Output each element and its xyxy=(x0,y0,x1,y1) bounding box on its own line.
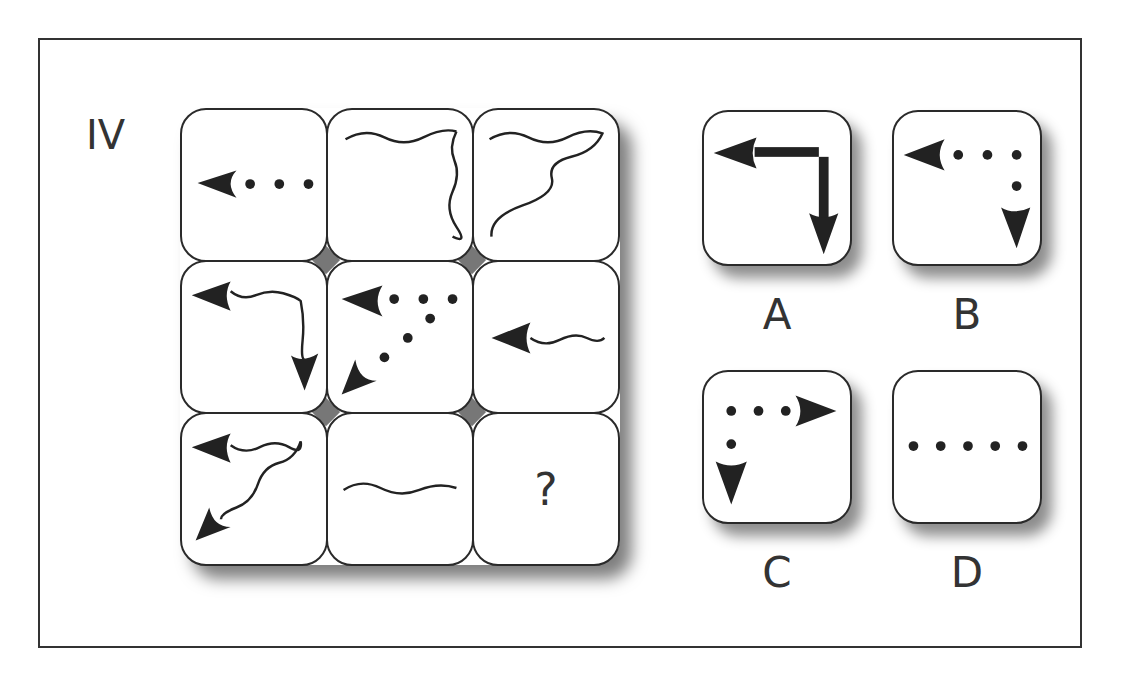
option-d[interactable] xyxy=(892,370,1042,524)
dotted-left-diagonal-arrows-icon xyxy=(328,262,472,412)
option-a-label: A xyxy=(747,290,807,339)
grid-cell-missing: ? xyxy=(472,412,620,566)
wavy-left-diagonal-arrows-icon xyxy=(182,414,326,564)
grid-cell-r2c2 xyxy=(326,260,474,414)
set-label: IV xyxy=(86,112,125,158)
grid-cell-r2c1 xyxy=(180,260,328,414)
wavy-triangle-line-icon xyxy=(474,110,618,260)
wavy-line-icon xyxy=(328,414,472,564)
option-c-label: C xyxy=(747,548,807,597)
grid-cell-r3c1 xyxy=(180,412,328,566)
option-b[interactable] xyxy=(892,110,1042,266)
grid-cell-r1c3 xyxy=(472,108,620,262)
option-b-label: B xyxy=(937,290,997,339)
grid-cell-r3c3-wavy xyxy=(472,260,620,414)
option-a[interactable] xyxy=(702,110,852,266)
dotted-left-arrow-icon xyxy=(182,110,326,260)
five-dots-icon xyxy=(894,372,1040,522)
wavy-left-down-arrows-icon xyxy=(182,262,326,412)
option-c[interactable] xyxy=(702,370,852,524)
wavy-corner-line-icon xyxy=(328,110,472,260)
dotted-right-down-arrows-icon xyxy=(704,372,850,522)
option-d-label: D xyxy=(937,548,997,597)
dotted-left-down-arrows-icon xyxy=(894,112,1040,264)
wavy-left-arrow-icon xyxy=(474,262,618,412)
grid-cell-r3c2 xyxy=(326,412,474,566)
missing-marker: ? xyxy=(474,464,618,515)
grid-cell-r1c2 xyxy=(326,108,474,262)
grid-cell-r1c1 xyxy=(180,108,328,262)
solid-left-down-arrows-icon xyxy=(704,112,850,264)
